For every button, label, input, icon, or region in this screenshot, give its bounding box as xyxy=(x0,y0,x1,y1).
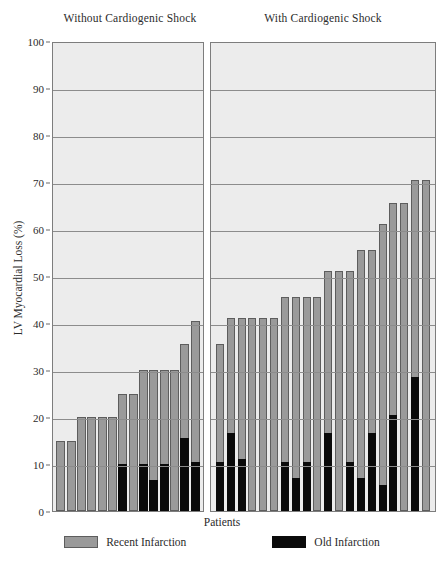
x-axis-label: Patients xyxy=(0,516,444,528)
bar-recent-infarction xyxy=(379,224,387,511)
bar-recent-infarction xyxy=(346,271,354,511)
bar-recent-infarction xyxy=(191,321,200,511)
gridline xyxy=(53,466,203,467)
bar-recent-infarction xyxy=(281,297,289,511)
bar-old-infarction xyxy=(303,462,311,511)
y-axis-tick-mark xyxy=(46,512,50,513)
bar-recent-infarction xyxy=(77,417,86,511)
bar-recent-infarction xyxy=(357,250,365,511)
y-axis-tick-mark xyxy=(46,465,50,466)
bar-recent-infarction xyxy=(259,318,267,511)
bar-recent-infarction xyxy=(139,370,148,511)
bar-recent-infarction xyxy=(335,271,343,511)
y-axis-tick-mark xyxy=(46,371,50,372)
bar-recent-infarction xyxy=(368,250,376,511)
bar-recent-infarction xyxy=(313,297,321,511)
y-axis: LV Myocardial Loss (%) 01020304050607080… xyxy=(0,36,52,518)
gridline xyxy=(211,372,435,373)
y-axis-tick-label: 10 xyxy=(4,459,44,471)
legend-label-recent: Recent Infarction xyxy=(106,536,186,548)
gridline xyxy=(211,137,435,138)
plot-panel-with-shock xyxy=(210,42,436,512)
panel-title-with-shock: With Cardiogenic Shock xyxy=(210,12,436,24)
bar-old-infarction xyxy=(389,415,397,511)
bar-old-infarction xyxy=(346,462,354,511)
gridline xyxy=(53,231,203,232)
bar-recent-infarction xyxy=(216,344,224,511)
bar-old-infarction xyxy=(118,464,127,511)
bar-old-infarction xyxy=(411,377,419,511)
legend-swatch-recent-icon xyxy=(64,536,98,548)
y-axis-tick-label: 90 xyxy=(4,83,44,95)
gridline xyxy=(53,278,203,279)
bar-recent-infarction xyxy=(170,370,179,511)
bar-recent-infarction xyxy=(292,297,300,511)
gridline xyxy=(211,184,435,185)
bar-old-infarction xyxy=(191,462,200,511)
legend-item-recent-infarction: Recent Infarction xyxy=(64,536,186,548)
y-axis-tick-mark xyxy=(46,136,50,137)
bar-recent-infarction xyxy=(227,318,235,511)
bar-recent-infarction xyxy=(270,318,278,511)
y-axis-tick-mark xyxy=(46,183,50,184)
bar-recent-infarction xyxy=(56,441,65,512)
gridline xyxy=(53,137,203,138)
bar-old-infarction xyxy=(238,459,246,511)
bar-old-infarction xyxy=(227,433,235,511)
bar-recent-infarction xyxy=(108,417,117,511)
gridline xyxy=(211,419,435,420)
gridline xyxy=(53,419,203,420)
y-axis-tick-label: 80 xyxy=(4,130,44,142)
gridline xyxy=(211,466,435,467)
y-axis-tick-mark xyxy=(46,277,50,278)
bar-recent-infarction xyxy=(118,394,127,512)
legend-swatch-old-icon xyxy=(272,536,306,548)
bar-old-infarction xyxy=(379,485,387,511)
gridline xyxy=(53,372,203,373)
gridline xyxy=(53,90,203,91)
bar-recent-infarction xyxy=(324,271,332,511)
bar-recent-infarction xyxy=(248,318,256,511)
bar-recent-infarction xyxy=(160,370,169,511)
bar-recent-infarction xyxy=(149,370,158,511)
bar-group-without-shock xyxy=(53,43,203,511)
legend-label-old: Old Infarction xyxy=(314,536,379,548)
chart-figure: Without Cardiogenic Shock With Cardiogen… xyxy=(0,0,444,562)
y-axis-tick-mark xyxy=(46,418,50,419)
bar-recent-infarction xyxy=(180,344,189,511)
y-axis-tick-label: 100 xyxy=(4,36,44,48)
gridline xyxy=(211,278,435,279)
bar-recent-infarction xyxy=(238,318,246,511)
bar-recent-infarction xyxy=(67,441,76,512)
bar-recent-infarction xyxy=(129,394,138,512)
bar-recent-infarction xyxy=(87,417,96,511)
y-axis-tick-label: 70 xyxy=(4,177,44,189)
bar-old-infarction xyxy=(139,464,148,511)
chart-legend: Recent Infarction Old Infarction xyxy=(0,536,444,548)
y-axis-tick-mark xyxy=(46,324,50,325)
y-axis-tick-mark xyxy=(46,89,50,90)
legend-item-old-infarction: Old Infarction xyxy=(272,536,379,548)
bar-recent-infarction xyxy=(411,180,419,511)
bar-recent-infarction xyxy=(98,417,107,511)
gridline xyxy=(53,184,203,185)
y-axis-tick-mark xyxy=(46,42,50,43)
y-axis-tick-label: 40 xyxy=(4,318,44,330)
bar-old-infarction xyxy=(160,464,169,511)
bar-old-infarction xyxy=(180,438,189,511)
y-axis-tick-label: 20 xyxy=(4,412,44,424)
bar-recent-infarction xyxy=(400,203,408,511)
bar-recent-infarction xyxy=(303,297,311,511)
gridline xyxy=(211,90,435,91)
bar-old-infarction xyxy=(149,480,158,511)
bar-old-infarction xyxy=(216,462,224,511)
bar-group-with-shock xyxy=(211,43,435,511)
bar-old-infarction xyxy=(357,478,365,511)
bar-old-infarction xyxy=(368,433,376,511)
panel-title-without-shock: Without Cardiogenic Shock xyxy=(56,12,204,24)
bar-old-infarction xyxy=(281,462,289,511)
y-axis-tick-label: 30 xyxy=(4,365,44,377)
bar-recent-infarction xyxy=(422,180,430,511)
bar-recent-infarction xyxy=(389,203,397,511)
gridline xyxy=(53,325,203,326)
